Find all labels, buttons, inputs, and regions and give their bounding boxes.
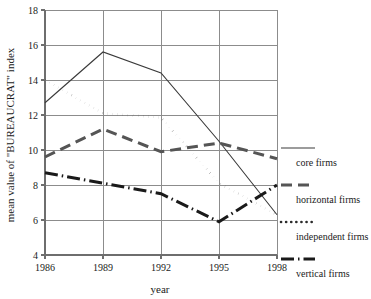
legend-label: core firms	[296, 157, 337, 168]
legend-label: independent firms	[296, 231, 369, 242]
y-axis-title: mean value of "BUREAUCRAT" index	[4, 47, 16, 222]
y-tick-label: 18	[28, 5, 38, 16]
y-tick-label: 4	[33, 250, 38, 261]
x-tick-label: 1992	[151, 262, 171, 273]
y-tick-label: 12	[28, 110, 38, 121]
chart-container: 4681012141618 19861989199219951998 mean …	[0, 0, 371, 299]
x-tick-label: 1989	[93, 262, 113, 273]
x-axis-title: year	[151, 283, 170, 295]
legend-label: horizontal firms	[296, 194, 360, 205]
y-tick-label: 16	[28, 40, 38, 51]
y-tick-label: 10	[28, 145, 38, 156]
legend: core firmshorizontal firmsindependent fi…	[281, 148, 369, 279]
x-tick-label: 1986	[35, 262, 55, 273]
y-tick-label: 6	[33, 215, 38, 226]
grid-lines	[45, 10, 277, 255]
x-axis-tick-labels: 19861989199219951998	[35, 262, 287, 273]
y-tick-label: 14	[28, 75, 38, 86]
x-tick-label: 1998	[267, 262, 287, 273]
line-chart: 4681012141618 19861989199219951998 mean …	[0, 0, 371, 299]
y-axis-tick-labels: 4681012141618	[28, 5, 38, 261]
legend-label: vertical firms	[296, 268, 350, 279]
x-tick-label: 1995	[209, 262, 229, 273]
y-tick-label: 8	[33, 180, 38, 191]
tick-marks	[41, 10, 277, 259]
